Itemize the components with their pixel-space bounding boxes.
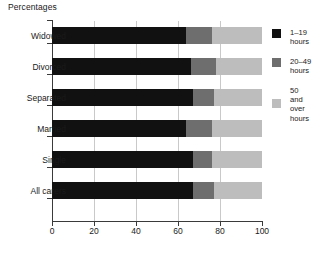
bar-segment[interactable] (52, 89, 193, 106)
legend-item[interactable]: 1–19 hours (272, 28, 330, 47)
bar-segment[interactable] (52, 182, 193, 199)
y-axis-tick (47, 43, 52, 44)
bar-segment[interactable] (52, 151, 193, 168)
x-axis-tick (136, 222, 137, 226)
x-axis-tick (262, 222, 263, 226)
chart-title: Percentages (8, 2, 57, 12)
bar-segment[interactable] (186, 27, 211, 44)
legend-label: 1–19 hours (290, 28, 330, 47)
bar-segment[interactable] (186, 120, 211, 137)
chart-legend: 1–19 hours20–49 hours50 and over hours (272, 28, 330, 133)
x-axis-tick (52, 222, 53, 226)
legend-swatch-icon (272, 29, 281, 38)
x-axis-tick (94, 222, 95, 226)
category-label: Divorced (0, 62, 66, 72)
bar-segment[interactable] (193, 182, 214, 199)
x-axis-tick-label: 20 (79, 226, 109, 236)
legend-label: 50 and over hours (290, 86, 330, 124)
bar-segment[interactable] (212, 120, 262, 137)
bar-row[interactable] (52, 182, 262, 199)
x-axis-tick-label: 100 (247, 226, 277, 236)
percentages-stacked-bar-chart: Percentages WidowedDivorcedSeparatedMarr… (0, 0, 330, 253)
y-axis-tick (47, 198, 52, 199)
y-axis-tick (47, 136, 52, 137)
bar-row[interactable] (52, 151, 262, 168)
y-axis-tick (47, 20, 52, 21)
x-axis-tick-label: 60 (163, 226, 193, 236)
y-axis-tick (47, 74, 52, 75)
category-label: Married (0, 124, 66, 134)
bar-row[interactable] (52, 27, 262, 44)
x-axis-tick-label: 0 (37, 226, 67, 236)
legend-swatch-icon (272, 58, 281, 67)
bar-row[interactable] (52, 120, 262, 137)
x-axis-tick-label: 80 (205, 226, 235, 236)
bar-segment[interactable] (193, 151, 212, 168)
plot-area (52, 21, 262, 221)
y-axis-tick (47, 167, 52, 168)
bar-segment[interactable] (214, 182, 262, 199)
category-label: All carers (0, 186, 66, 196)
category-label: Single (0, 155, 66, 165)
bar-segment[interactable] (191, 58, 216, 75)
bar-segment[interactable] (52, 58, 191, 75)
x-axis-tick (220, 222, 221, 226)
category-label: Separated (0, 93, 66, 103)
bar-segment[interactable] (52, 120, 186, 137)
bar-segment[interactable] (214, 89, 262, 106)
x-axis-tick-label: 40 (121, 226, 151, 236)
legend-label: 20–49 hours (290, 57, 330, 76)
legend-item[interactable]: 50 and over hours (272, 86, 330, 124)
category-label: Widowed (0, 31, 66, 41)
bar-row[interactable] (52, 58, 262, 75)
legend-item[interactable]: 20–49 hours (272, 57, 330, 76)
bar-segment[interactable] (212, 27, 262, 44)
x-axis-tick (178, 222, 179, 226)
legend-swatch-icon (272, 99, 281, 108)
x-axis-line (52, 221, 263, 222)
bar-segment[interactable] (193, 89, 214, 106)
bar-row[interactable] (52, 89, 262, 106)
y-axis-tick (47, 105, 52, 106)
bar-segment[interactable] (216, 58, 262, 75)
bar-segment[interactable] (212, 151, 262, 168)
bar-segment[interactable] (52, 27, 186, 44)
